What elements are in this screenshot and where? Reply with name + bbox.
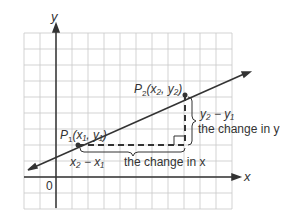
svg-text:P2(x₂, y₂): P2(x₂, y₂) bbox=[134, 82, 182, 98]
origin-label: 0 bbox=[46, 179, 53, 193]
grid bbox=[24, 33, 232, 209]
dy-description: the change in y bbox=[198, 122, 279, 136]
p1-label: P1(x₁, y₁) bbox=[60, 128, 107, 144]
p1-point bbox=[76, 143, 81, 148]
p2-point bbox=[183, 93, 188, 98]
y-axis-label: y bbox=[50, 9, 59, 24]
right-angle-mark bbox=[174, 136, 185, 145]
slope-diagram: y x 0 P1(x₁, y₁) P2(x₂, y₂) y₂ − y₁ the … bbox=[0, 0, 303, 221]
x-axis-label: x bbox=[243, 169, 251, 184]
dy-brace bbox=[188, 97, 196, 145]
svg-text:P1(x₁, y₁): P1(x₁, y₁) bbox=[60, 128, 107, 144]
dx-expression: x₂ − x₁ bbox=[69, 155, 104, 169]
dy-expression: y₂ − y₁ bbox=[199, 107, 234, 121]
p2-label: P2(x₂, y₂) bbox=[134, 82, 182, 98]
dx-description: the change in x bbox=[124, 155, 205, 169]
